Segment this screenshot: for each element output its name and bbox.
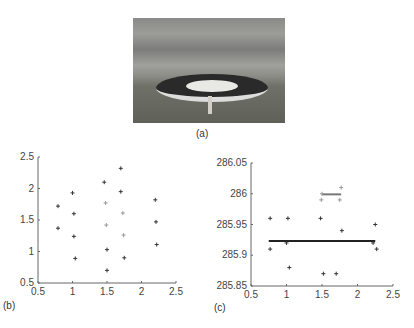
svg-text:2: 2	[28, 183, 34, 194]
svg-text:286: 286	[230, 188, 247, 199]
svg-text:2.5: 2.5	[169, 286, 183, 297]
svg-text:285.85: 285.85	[216, 280, 247, 291]
svg-text:1: 1	[284, 289, 290, 300]
svg-text:2.5: 2.5	[386, 289, 400, 300]
svg-text:1: 1	[28, 246, 34, 257]
svg-text:286.05: 286.05	[216, 157, 247, 168]
svg-text:1.5: 1.5	[315, 289, 329, 300]
svg-text:0.5: 0.5	[20, 277, 34, 288]
svg-text:2.5: 2.5	[20, 151, 34, 162]
plot-b: 0.511.522.50.511.522.5	[20, 151, 183, 297]
plots: 0.511.522.50.511.522.50.511.522.5285.852…	[0, 0, 414, 328]
svg-text:2: 2	[355, 289, 361, 300]
svg-text:285.9: 285.9	[222, 249, 247, 260]
svg-text:285.95: 285.95	[216, 219, 247, 230]
svg-text:2: 2	[139, 286, 145, 297]
svg-text:1.5: 1.5	[20, 214, 34, 225]
svg-text:1: 1	[70, 286, 76, 297]
plot-c: 0.511.522.5285.85285.9285.95286286.05	[216, 157, 400, 300]
svg-text:1.5: 1.5	[100, 286, 114, 297]
